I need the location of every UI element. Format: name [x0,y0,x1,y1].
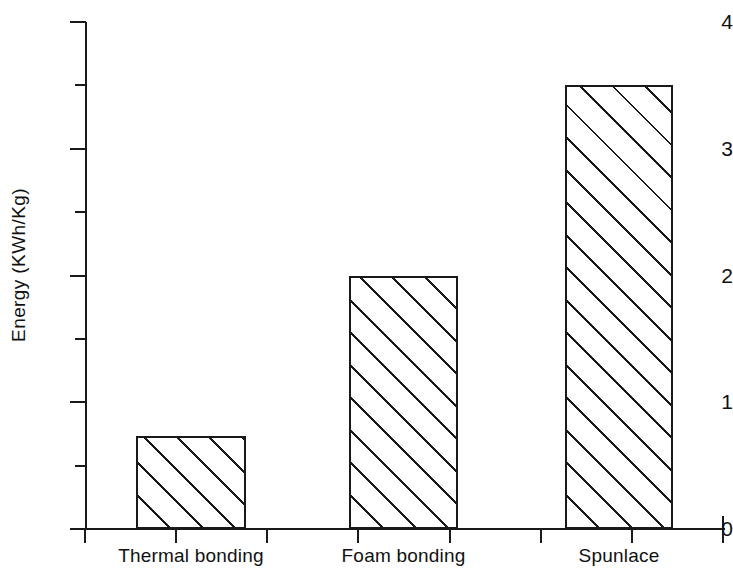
y-axis-major-tick [70,148,86,150]
x-axis-tick [175,530,177,543]
y-axis-minor-tick [75,465,86,467]
bar-chart: Energy (KWh/Kg) 01234 Thermal bondingFoa… [0,0,733,580]
y-axis-tick-label: 3 [675,137,733,161]
y-axis-tick-label: 2 [675,264,733,288]
x-axis-category-label: Spunlace [579,545,660,567]
y-axis-minor-tick [75,338,86,340]
x-axis-tick [631,530,633,543]
y-axis-major-tick [70,275,86,277]
x-axis-tick [449,530,451,543]
y-axis-minor-tick [75,84,86,86]
x-axis-tick [266,530,268,543]
bar-foam-bonding [349,276,458,530]
bar-thermal-bonding [136,436,246,529]
x-axis-tick [84,530,86,543]
y-axis-tick-label: 1 [675,390,733,414]
bar-spunlace [565,85,673,529]
x-axis-tick [722,530,724,543]
x-axis-tick [357,530,359,543]
x-axis-category-label: Foam bonding [342,545,466,567]
y-axis-minor-tick [75,211,86,213]
y-axis-major-tick [70,21,86,23]
x-axis-tick [540,530,542,543]
y-axis-major-tick [70,401,86,403]
y-axis-title: Energy (KWh/Kg) [2,0,36,530]
y-axis-tick-label: 4 [675,10,733,34]
y-axis-tick-label: 0 [675,517,733,541]
y-axis-title-text: Energy (KWh/Kg) [8,188,30,342]
x-axis-category-label: Thermal bonding [118,545,264,567]
